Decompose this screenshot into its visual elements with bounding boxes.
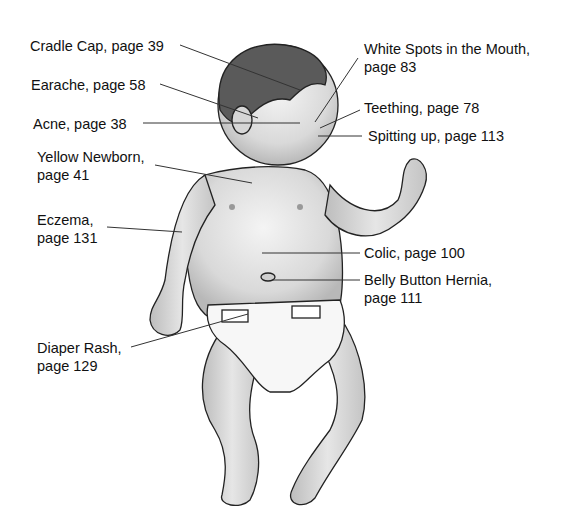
label-white-spots: White Spots in the Mouth,page 83 xyxy=(364,40,530,76)
label-spitting-up: Spitting up, page 113 xyxy=(368,127,504,145)
label-belly-button-hernia: Belly Button Hernia,page 111 xyxy=(364,271,492,307)
label-eczema: Eczema,page 131 xyxy=(37,211,97,247)
label-teething: Teething, page 78 xyxy=(364,99,479,117)
label-earache: Earache, page 58 xyxy=(31,76,145,94)
label-yellow-newborn: Yellow Newborn,page 41 xyxy=(37,148,144,184)
label-colic: Colic, page 100 xyxy=(364,244,465,262)
right-arm xyxy=(325,159,426,236)
label-acne: Acne, page 38 xyxy=(33,115,127,133)
label-diaper-rash: Diaper Rash,page 129 xyxy=(37,339,122,375)
label-cradle-cap: Cradle Cap, page 39 xyxy=(30,37,164,55)
